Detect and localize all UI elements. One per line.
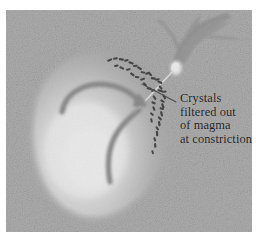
label-line-2: filtered out xyxy=(180,106,252,120)
diagram-panel: Crystals filtered out of magma at constr… xyxy=(6,10,252,232)
label-line-3: of magma xyxy=(180,119,252,133)
label-line-4: at constriction xyxy=(180,133,252,147)
figure-root: Crystals filtered out of magma at constr… xyxy=(0,0,264,239)
label-line-1: Crystals xyxy=(180,92,252,106)
crystals-filtered-label: Crystals filtered out of magma at constr… xyxy=(180,92,252,146)
